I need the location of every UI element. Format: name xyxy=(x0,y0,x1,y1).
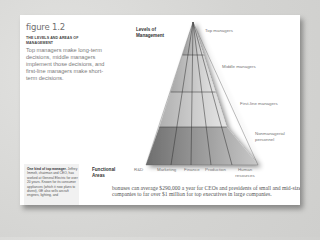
area-label-finance: Finance xyxy=(184,167,200,173)
photo-caption-text: Jeffrey Immelt, chairman and CEO, has wo… xyxy=(27,167,78,197)
level-label-middle: Middle managers xyxy=(222,64,256,70)
areas-heading: Functional Areas xyxy=(92,167,122,179)
levels-heading: Levels of Management xyxy=(136,27,176,39)
area-label-rnd: R&D xyxy=(134,167,143,173)
level-label-nonmanagerial: Nonmanagerial personnel xyxy=(255,131,295,142)
textbook-page: figure 1.2 THE LEVELS AND AREAS OF MANAG… xyxy=(20,15,300,205)
photo-caption: One kind of top manager. Jeffrey Immelt,… xyxy=(27,167,79,198)
photo-caption-box: One kind of top manager. Jeffrey Immelt,… xyxy=(24,164,79,205)
level-label-top: Top managers xyxy=(205,28,233,34)
area-label-production: Production xyxy=(205,167,226,173)
photo-caption-heading: One kind of top manager. xyxy=(27,167,67,171)
area-label-marketing: Marketing xyxy=(157,167,176,173)
area-label-human-resources: Human resources xyxy=(233,167,257,178)
body-paragraph: bonuses can average $290,000 a year for … xyxy=(112,185,300,198)
level-label-first-line: First-line managers xyxy=(240,101,278,107)
